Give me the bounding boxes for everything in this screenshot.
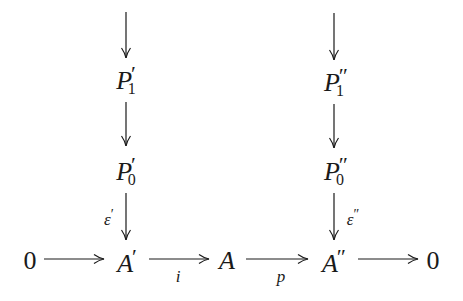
- node-a-dprime: A″: [322, 246, 346, 277]
- node-zero-left: 0: [24, 248, 37, 274]
- node-a-prime: A′: [117, 246, 137, 277]
- node-p1-right: P″1: [324, 65, 344, 99]
- node-a: A: [219, 248, 235, 274]
- label-i: i: [176, 268, 181, 285]
- node-p0-left: P′0: [116, 154, 136, 188]
- label-epsilon-prime: ε′: [104, 208, 114, 228]
- node-p1-left: P′1: [116, 63, 136, 97]
- node-p0-right: P″0: [324, 154, 344, 188]
- node-zero-right: 0: [427, 248, 440, 274]
- label-epsilon-dprime: ε″: [347, 208, 360, 228]
- label-p: p: [277, 268, 286, 285]
